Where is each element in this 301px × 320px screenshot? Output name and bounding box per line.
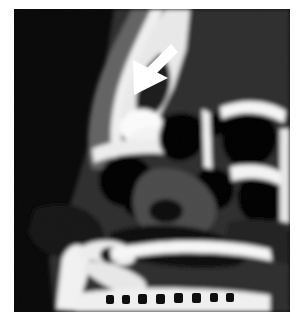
ct-scan-image: [14, 9, 290, 312]
ct-figure-root: sagittal oblique temporal bone / skull b…: [0, 0, 301, 320]
film-grain: [14, 9, 290, 312]
ct-scan-frame: [14, 9, 290, 312]
